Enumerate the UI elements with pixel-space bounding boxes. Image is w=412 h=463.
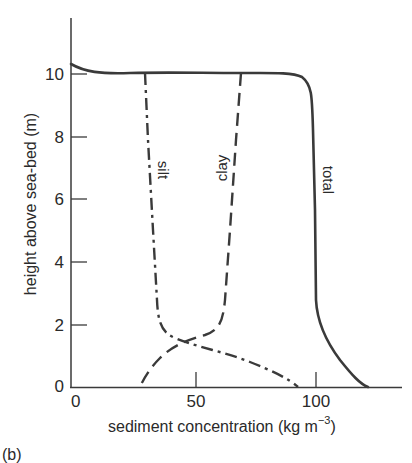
y-tick-label-2: 2 — [55, 316, 64, 335]
x-ticks — [196, 372, 316, 387]
y-tick-label-8: 8 — [55, 128, 64, 147]
clay-label: clay — [213, 154, 230, 181]
panel-label: (b) — [2, 446, 22, 463]
y-tick-label-4: 4 — [55, 253, 64, 272]
y-axis-title: height above sea-bed (m) — [22, 113, 39, 295]
clay-curve — [140, 73, 241, 387]
x-tick-label-100: 100 — [302, 392, 330, 411]
y-tick-label-6: 6 — [55, 190, 64, 209]
silt-curve — [145, 73, 298, 387]
x-axis-title: sediment concentration (kg m−3) — [108, 414, 336, 435]
y-tick-label-0: 0 — [55, 377, 64, 396]
chart-canvas: 10 8 6 4 2 0 0 50 100 height above sea-b… — [0, 0, 412, 463]
y-ticks — [71, 74, 87, 325]
x-tick-label-50: 50 — [187, 392, 206, 411]
svg-text:sediment concentration (kg m−3: sediment concentration (kg m−3) — [108, 414, 336, 435]
y-tick-label-10: 10 — [45, 65, 64, 84]
x-tick-label-0: 0 — [71, 392, 80, 411]
total-curve — [71, 64, 368, 387]
silt-label: silt — [155, 161, 172, 180]
total-label: total — [320, 166, 337, 194]
